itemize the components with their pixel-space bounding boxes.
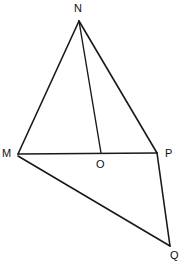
segment-mp [18,153,157,154]
geometry-canvas [0,0,188,268]
edge-group [18,21,170,246]
segment-pq [157,153,170,246]
segment-mn [18,21,79,154]
segment-mq [18,156,170,246]
vertex-label-p: P [165,148,172,159]
vertex-label-m: M [2,148,11,159]
geometry-figure: N M O P Q [0,0,188,268]
vertex-label-q: Q [170,250,179,261]
vertex-label-n: N [74,3,82,14]
vertex-label-o: O [96,159,105,170]
